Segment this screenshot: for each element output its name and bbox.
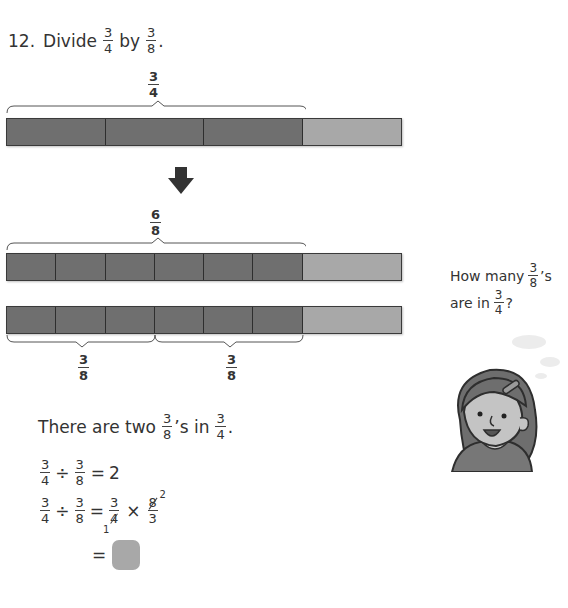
eq1-fraction-b: 3 8 [75, 458, 85, 487]
question-heading: 12. Divide 3 4 by 3 8 . [8, 26, 164, 55]
cancelled-numerator: 8 [148, 496, 158, 511]
equation-2: 3 4 ÷ 3 8 = 3 4 1 × 8 3 2 [38, 496, 160, 525]
dividend-fraction: 3 4 [103, 26, 113, 55]
quarters-bar [6, 118, 402, 146]
bar-segment-unshaded [303, 119, 402, 145]
bar-segment-shaded [56, 254, 105, 280]
bar-segment-shaded [7, 119, 106, 145]
cancelled-denominator: 4 [110, 511, 118, 525]
top-fraction-label: 3 4 [148, 70, 159, 99]
equation-1: 3 4 ÷ 3 8 = 2 [38, 458, 120, 487]
question-joiner: by [119, 31, 140, 51]
bar-segment-unshaded [303, 307, 402, 333]
down-arrow-icon [166, 166, 196, 196]
eq2-fraction-e: 8 3 2 [148, 496, 158, 525]
statement-fraction-1: 3 8 [162, 412, 172, 441]
middle-fraction-label: 6 8 [150, 208, 161, 237]
question-verb: Divide [43, 31, 97, 51]
divisor-fraction: 3 8 [146, 26, 156, 55]
bottom-brace-left [6, 334, 158, 348]
bar-segment-shaded [204, 119, 303, 145]
bar-segment-shaded [204, 307, 253, 333]
bar-segment-shaded [106, 307, 155, 333]
question-number: 12. [8, 31, 35, 51]
bar-segment-shaded [155, 254, 204, 280]
reduced-numerator: 2 [160, 490, 166, 500]
eq1-fraction-a: 3 4 [40, 458, 50, 487]
bottom-brace-right [154, 334, 306, 348]
thought-fraction-2: 3 4 [494, 289, 504, 316]
bar-segment-shaded [106, 119, 205, 145]
eighths-bar-bottom [6, 306, 402, 334]
bar-segment-shaded [7, 254, 56, 280]
equation-3: = [92, 540, 140, 570]
answer-box[interactable] [112, 540, 140, 570]
bottom-fraction-label-left: 3 8 [78, 353, 89, 382]
thought-bubble-large [512, 335, 546, 349]
statement-fraction-2: 3 4 [215, 412, 225, 441]
girl-illustration [440, 360, 550, 472]
bar-segment-shaded [7, 307, 56, 333]
eighths-bar-top [6, 253, 402, 281]
thought-text: How many 3 8 ’s are in 3 4 ? [450, 262, 552, 316]
middle-brace [6, 237, 306, 251]
bar-segment-shaded [106, 254, 155, 280]
eq2-fraction-a: 3 4 [40, 496, 50, 525]
reduced-denominator: 1 [103, 525, 109, 535]
bar-segment-shaded [253, 307, 302, 333]
eq2-fraction-b: 3 8 [75, 496, 85, 525]
eq2-fraction-c: 3 4 1 [109, 496, 119, 525]
bottom-fraction-label-right: 3 8 [226, 353, 237, 382]
top-brace [6, 100, 306, 114]
bar-segment-shaded [56, 307, 105, 333]
bar-segment-shaded [253, 254, 302, 280]
thought-fraction-1: 3 8 [528, 262, 538, 289]
solution-statement: There are two 3 8 ’s in 3 4 . [38, 412, 233, 441]
bar-segment-shaded [155, 307, 204, 333]
bar-segment-unshaded [303, 254, 402, 280]
bar-segment-shaded [204, 254, 253, 280]
